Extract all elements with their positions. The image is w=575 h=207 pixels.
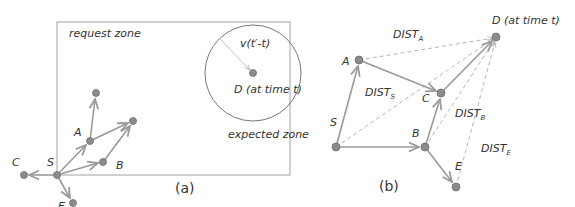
node-right-a <box>130 118 137 125</box>
dist-label-s: DISTS <box>365 86 395 101</box>
node-s-a <box>54 172 61 179</box>
edge-a-top <box>90 99 95 141</box>
node-d-b <box>492 33 500 41</box>
edge-b-e-b <box>425 147 452 182</box>
caption-b: (b) <box>379 178 399 194</box>
label-b-b: B <box>412 127 420 140</box>
node-e-a <box>70 200 77 207</box>
node-e-b <box>452 183 460 191</box>
node-a-a <box>87 138 94 145</box>
label-a-a: A <box>73 126 82 139</box>
dist-label-a: DISTA <box>393 28 423 43</box>
expected-zone-label: expected zone <box>228 128 309 141</box>
node-c-b <box>437 89 445 97</box>
diagram-canvas: request zone v(t′-t) D (at time t) expec… <box>0 0 575 207</box>
node-top-a <box>93 90 100 97</box>
edge-a-right <box>90 123 128 141</box>
label-e-a: E <box>58 200 65 207</box>
edge-s-e <box>57 175 70 198</box>
node-c-a <box>21 172 28 179</box>
node-a-b <box>355 56 363 64</box>
label-e-b: E <box>455 160 462 173</box>
dest-label-b: D (at time t) <box>492 14 560 27</box>
dist-line-b <box>425 41 494 147</box>
node-d-a <box>250 70 257 77</box>
edge-s-a-b <box>336 66 358 147</box>
node-s-b <box>332 143 340 151</box>
label-s-b: S <box>330 116 337 129</box>
label-c-b: C <box>422 92 430 105</box>
node-b-a <box>100 159 107 166</box>
label-c-a: C <box>12 156 20 169</box>
edge-b-right <box>103 126 130 162</box>
radius-label: v(t′-t) <box>240 37 270 50</box>
caption-a: (a) <box>175 180 195 196</box>
label-a-b: A <box>341 55 350 68</box>
edge-b-c-b <box>425 99 440 147</box>
node-b-b <box>421 143 429 151</box>
label-b-a: B <box>116 159 124 172</box>
dist-line-a <box>359 38 493 60</box>
panel-a: request zone v(t′-t) D (at time t) expec… <box>12 22 309 207</box>
request-zone-label: request zone <box>69 27 141 40</box>
panel-b: A S C B E D (at time t) DISTA DISTS DIST… <box>330 14 560 194</box>
dist-label-b: DISTB <box>455 107 485 122</box>
dist-label-e: DISTE <box>481 142 511 157</box>
dest-label-a: D (at time t) <box>234 83 302 96</box>
edge-c-d-b <box>441 41 492 93</box>
label-s-a: S <box>47 156 54 169</box>
